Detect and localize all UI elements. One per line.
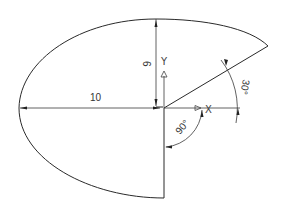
arrowhead-90-upper [201, 110, 204, 117]
x-axis-label: X [205, 104, 212, 115]
major-axis-label: 10 [90, 92, 102, 103]
angle-label-90deg: 90° [173, 118, 191, 137]
elliptical-arc [19, 19, 268, 198]
minor-axis-label: 6 [141, 61, 152, 67]
y-axis-label: Y [160, 56, 168, 67]
arrowhead-left [20, 107, 27, 110]
arrowhead-90-lower [165, 146, 172, 149]
arrowhead-center-v [155, 99, 158, 106]
ellipse-arc-diagram: 10 6 Y X 30° 90° [0, 0, 285, 219]
arrowhead-top [155, 20, 158, 27]
radial-edge-30deg [164, 46, 268, 108]
angle-label-30deg: 30° [238, 79, 251, 96]
